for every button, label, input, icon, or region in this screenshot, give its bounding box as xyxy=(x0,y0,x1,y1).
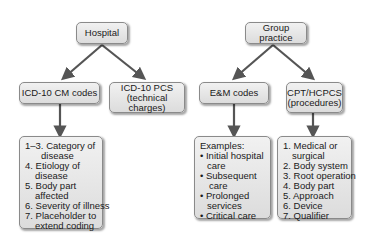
group-practice-node: Group practice xyxy=(245,22,307,44)
cpt-hcpcs-node: CPT/HCPCS (procedures) xyxy=(286,82,343,113)
list-item: 7. Qualifier xyxy=(283,211,346,221)
hospital-label: Hospital xyxy=(85,28,119,38)
cpt-hcpcs-details: 1. Medical or surgical 2. Body system 3.… xyxy=(277,136,352,219)
em-examples-details: Examples: • Initial hospital care • Subs… xyxy=(194,136,271,219)
list-item-cont: extend coding xyxy=(25,221,97,231)
icd10-cm-label: ICD-10 CM codes xyxy=(22,88,98,98)
em-codes-label: E&M codes xyxy=(210,88,259,98)
group-practice-label: Group practice xyxy=(246,23,306,43)
icd10-cm-details: 1–3. Category of disease 4. Etiology of … xyxy=(19,136,103,229)
list-item: • Critical care xyxy=(200,211,265,221)
em-codes-node: E&M codes xyxy=(199,82,269,104)
icd10-cm-node: ICD-10 CM codes xyxy=(19,82,100,104)
hospital-node: Hospital xyxy=(76,22,128,44)
icd10-pcs-node: ICD-10 PCS (technical charges) xyxy=(109,82,185,113)
icd10-pcs-label: ICD-10 PCS xyxy=(121,83,173,93)
icd10-pcs-sublabel: (technical charges) xyxy=(110,93,184,113)
cpt-hcpcs-sublabel: (procedures) xyxy=(288,98,342,108)
cpt-hcpcs-label: CPT/HCPCS xyxy=(287,88,342,98)
